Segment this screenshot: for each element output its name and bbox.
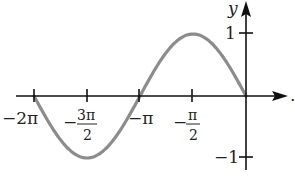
y-tick-label-1: 1	[225, 23, 236, 43]
svg-text:−: −	[173, 112, 187, 132]
x-tick-label-neg-pi: −π	[128, 108, 153, 128]
svg-text:π: π	[188, 107, 197, 123]
svg-text:−: −	[63, 112, 77, 132]
chart-canvas: y . 1 −1 −2π −π − 3π 2 − π 2	[0, 0, 295, 179]
x-axis-label: .	[290, 85, 295, 105]
y-tick-label-neg1: −1	[214, 147, 239, 167]
x-tick-label-neg-2pi: −2π	[2, 108, 38, 128]
y-axis-label: y	[227, 0, 238, 18]
svg-text:2: 2	[83, 127, 92, 143]
svg-text:2: 2	[189, 127, 198, 143]
x-tick-label-neg-3pi-over-2: − 3π 2	[63, 107, 97, 143]
svg-text:3π: 3π	[77, 107, 95, 123]
x-tick-label-neg-pi-over-2: − π 2	[173, 107, 200, 143]
